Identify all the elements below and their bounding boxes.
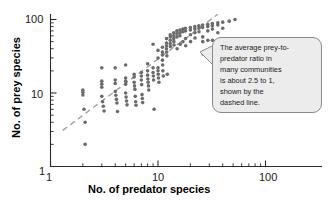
x-tick-label-1: 1 (46, 172, 52, 183)
data-point (132, 75, 136, 79)
data-point (115, 98, 119, 102)
data-point (116, 110, 120, 114)
data-point (114, 94, 118, 98)
data-point (124, 76, 128, 80)
data-point (233, 18, 237, 22)
data-point (113, 78, 117, 82)
data-point (141, 101, 145, 105)
data-point (151, 71, 155, 75)
data-point (113, 82, 117, 86)
data-point (216, 23, 220, 27)
data-point (151, 66, 155, 70)
data-point (134, 104, 138, 108)
data-point (175, 47, 179, 51)
data-point (161, 58, 165, 62)
data-point (193, 27, 197, 31)
data-point (161, 69, 165, 73)
data-point (146, 80, 150, 84)
data-point (197, 30, 201, 34)
x-axis-ticks (51, 161, 266, 167)
data-point (206, 29, 210, 33)
data-point (100, 85, 104, 89)
y-tick-label-1: 1 (39, 166, 45, 177)
data-point (165, 54, 169, 58)
data-point (152, 108, 156, 112)
data-point (115, 101, 119, 105)
data-point (161, 74, 165, 78)
data-point (83, 120, 87, 124)
annotation-callout: The average prey-to- predator ratio in m… (212, 37, 322, 113)
scatter-chart-figure: 100 10 1 1 10 100 No. of predator specie… (0, 0, 328, 200)
data-point (178, 34, 182, 38)
data-point (125, 103, 129, 107)
data-point (165, 37, 169, 41)
data-point (100, 95, 104, 99)
y-axis-title: No. of prey species (11, 36, 22, 140)
data-point (206, 25, 210, 29)
data-point (156, 69, 160, 73)
data-point (193, 31, 197, 35)
data-point (165, 47, 169, 51)
data-point (184, 44, 188, 48)
data-point (113, 90, 117, 94)
annotation-callout-text: The average prey-to- predator ratio in m… (220, 43, 315, 109)
data-point (156, 49, 160, 53)
data-point (101, 100, 105, 104)
data-point (221, 20, 225, 24)
data-point (157, 76, 161, 80)
data-point (184, 37, 188, 41)
data-point (227, 19, 231, 23)
data-point (201, 35, 205, 39)
data-point (147, 88, 151, 92)
data-point (133, 84, 137, 88)
data-point (152, 78, 156, 82)
data-point (157, 80, 161, 84)
data-point (216, 31, 220, 35)
data-point (172, 40, 176, 44)
data-point (100, 66, 104, 70)
data-point (83, 143, 87, 147)
y-axis-ticks (51, 20, 57, 167)
data-point (221, 26, 225, 30)
data-point (211, 24, 215, 28)
data-point (161, 53, 165, 57)
data-point (140, 71, 144, 75)
data-point (124, 95, 128, 99)
data-point (81, 93, 85, 97)
x-axis-title: No. of predator species (88, 184, 210, 195)
data-point (134, 100, 138, 104)
data-point (172, 43, 176, 47)
x-tick-label-100: 100 (259, 172, 277, 183)
data-point (201, 40, 205, 44)
data-point (201, 26, 205, 30)
data-point (152, 74, 156, 78)
y-tick-label-100: 100 (25, 14, 43, 25)
data-point (134, 95, 138, 99)
data-point (151, 42, 155, 46)
data-point (140, 93, 144, 97)
data-point (146, 77, 150, 81)
data-point (140, 78, 144, 82)
data-point (193, 36, 197, 40)
data-point (140, 83, 144, 87)
data-point (189, 40, 193, 44)
data-point (102, 104, 106, 108)
data-point (102, 109, 106, 113)
data-point (168, 39, 172, 43)
data-point (133, 88, 137, 92)
data-point (113, 66, 117, 70)
data-point (125, 99, 129, 103)
data-point (156, 72, 160, 76)
data-point (211, 27, 215, 31)
data-point (141, 97, 145, 101)
data-point (124, 91, 128, 95)
data-point (82, 108, 86, 112)
data-point (189, 33, 193, 37)
data-point (146, 62, 150, 66)
data-point (156, 56, 160, 60)
data-point (197, 26, 201, 30)
data-point (146, 69, 150, 73)
data-point (206, 39, 210, 43)
data-point (165, 72, 169, 76)
data-point (178, 42, 182, 46)
